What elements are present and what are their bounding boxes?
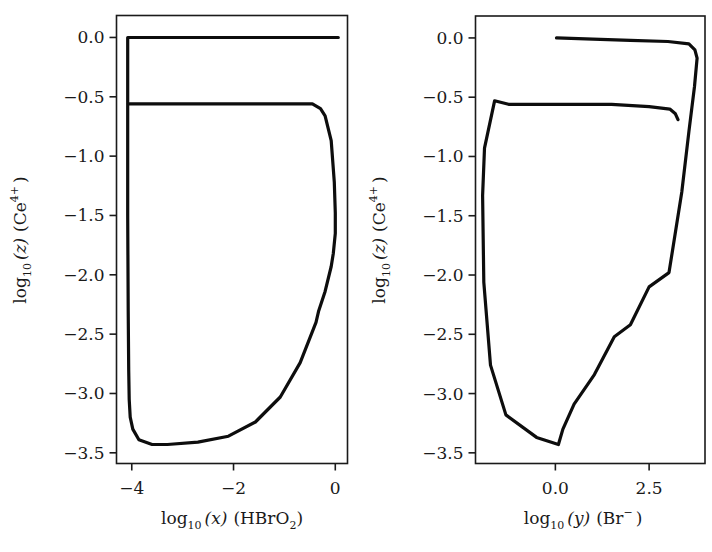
right-trajectory-line bbox=[483, 38, 697, 445]
y-tick-label: −1.5 bbox=[422, 206, 463, 226]
x-tick-label: −4 bbox=[119, 478, 144, 498]
y-tick-label: −0.5 bbox=[63, 87, 104, 107]
x-tick-label: 2.5 bbox=[636, 478, 663, 498]
y-tick-label: 0.0 bbox=[77, 27, 104, 47]
y-tick-label: −0.5 bbox=[422, 87, 463, 107]
left-panel: 0.0−0.5−1.0−1.5−2.0−2.5−3.0−3.5 −4−20 lo… bbox=[8, 16, 348, 533]
right-x-axis-label: log10(y)(Br−) bbox=[524, 506, 643, 532]
y-tick-label: 0.0 bbox=[436, 28, 463, 48]
y-tick-label: −2.0 bbox=[63, 265, 104, 285]
right-y-axis-label: log10(z)(Ce4+) bbox=[367, 176, 393, 303]
left-y-axis-label: log10(z)(Ce4+) bbox=[8, 176, 34, 303]
x-tick-label: 0.0 bbox=[542, 478, 569, 498]
y-tick-label: −3.0 bbox=[63, 383, 104, 403]
left-axes-frame bbox=[117, 16, 348, 464]
x-tick-label: 0 bbox=[330, 478, 341, 498]
y-tick-label: −2.5 bbox=[63, 324, 104, 344]
left-y-ticks: 0.0−0.5−1.0−1.5−2.0−2.5−3.0−3.5 bbox=[63, 27, 116, 462]
y-tick-label: −3.0 bbox=[422, 384, 463, 404]
y-tick-label: −1.0 bbox=[422, 146, 463, 166]
right-axes-frame bbox=[476, 16, 706, 464]
y-tick-label: −3.5 bbox=[63, 443, 104, 463]
left-trajectory-line bbox=[128, 38, 339, 445]
y-tick-label: −1.5 bbox=[63, 205, 104, 225]
right-x-ticks: 0.02.5 bbox=[542, 464, 663, 498]
left-x-axis-label: log10(x)(HBrO2) bbox=[161, 508, 303, 532]
figure: 0.0−0.5−1.0−1.5−2.0−2.5−3.0−3.5 −4−20 lo… bbox=[0, 0, 712, 552]
y-tick-label: −1.0 bbox=[63, 146, 104, 166]
x-tick-label: −2 bbox=[221, 478, 246, 498]
right-y-ticks: 0.0−0.5−1.0−1.5−2.0−2.5−3.0−3.5 bbox=[422, 28, 475, 463]
y-tick-label: −2.0 bbox=[422, 265, 463, 285]
right-panel: 0.0−0.5−1.0−1.5−2.0−2.5−3.0−3.5 0.02.5 l… bbox=[367, 16, 705, 532]
left-x-ticks: −4−20 bbox=[119, 464, 340, 498]
y-tick-label: −3.5 bbox=[422, 443, 463, 463]
y-tick-label: −2.5 bbox=[422, 324, 463, 344]
